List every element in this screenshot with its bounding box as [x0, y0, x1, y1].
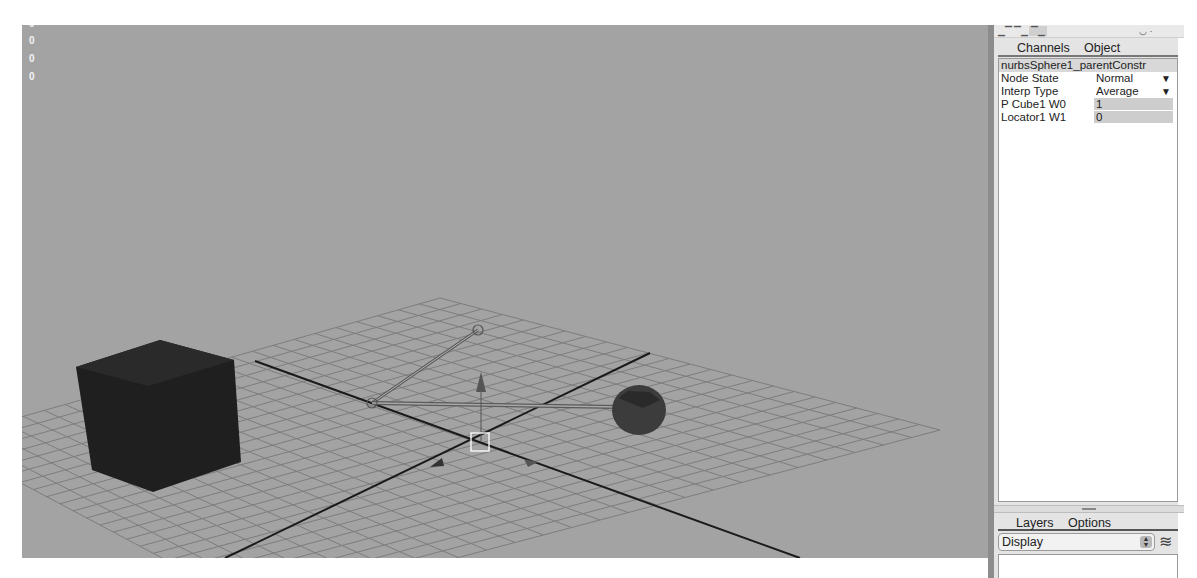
- attribute-layout-icon[interactable]: ▔▁: [1014, 26, 1028, 36]
- attribute-row[interactable]: P Cube1 W0 1: [999, 98, 1177, 111]
- scene-canvas[interactable]: [22, 25, 988, 558]
- hud-value: 0: [29, 25, 35, 29]
- attribute-label: Interp Type: [1001, 85, 1058, 98]
- new-layer-icon[interactable]: ≋: [1159, 533, 1177, 551]
- hud-value: 0: [29, 71, 35, 82]
- pcube1-weight-field[interactable]: 1: [1094, 98, 1173, 110]
- attribute-label: P Cube1 W0: [1001, 98, 1066, 111]
- hud-value: 0: [29, 35, 35, 46]
- layer-type-value: Display: [1002, 535, 1043, 549]
- layer-type-select[interactable]: Display ▲▼: [998, 533, 1155, 551]
- perspective-viewport[interactable]: 0 0 0 0: [22, 25, 988, 558]
- panel-toolbar: ▁▔ ▔▁ ▔▁ ◡ ·: [994, 25, 1184, 38]
- splitter-grip-icon[interactable]: [1082, 508, 1096, 510]
- grid-line: [260, 430, 940, 558]
- translate-y-arrow-icon: [476, 372, 486, 392]
- grid-line: [190, 369, 600, 520]
- hud-value: 0: [29, 53, 35, 64]
- channel-box-menubar: Channels Object: [998, 40, 1178, 57]
- attribute-row[interactable]: Locator1 W1 0: [999, 111, 1177, 124]
- node-name[interactable]: nurbsSphere1_parentConstr: [999, 59, 1177, 72]
- grid-line: [247, 425, 920, 559]
- channel-layout-icon[interactable]: ▁▔: [998, 26, 1012, 36]
- tab-channels[interactable]: Channels: [1017, 41, 1070, 55]
- grid-line: [153, 386, 773, 553]
- maya-window: 0 0 0 0 ▁▔ ▔▁ ▔▁ ◡ · Channels Object nur…: [0, 0, 1197, 578]
- select-stepper-icon: ▲▼: [1140, 536, 1152, 548]
- tab-object[interactable]: Object: [1084, 41, 1120, 55]
- attribute-label: Locator1 W1: [1001, 111, 1066, 124]
- translate-x-arrow-icon: [430, 458, 444, 467]
- dropdown-arrow-icon: ▼: [1161, 85, 1171, 98]
- attribute-value: Average: [1096, 85, 1139, 97]
- interp-type-dropdown[interactable]: Average ▼: [1094, 85, 1173, 97]
- panel-splitter[interactable]: [994, 505, 1184, 513]
- grid-line: [167, 392, 795, 559]
- layer-editor-menubar: Layers Options: [998, 514, 1178, 531]
- attribute-row[interactable]: Interp Type Average ▼: [999, 85, 1177, 98]
- attribute-row[interactable]: Node State Normal ▼: [999, 72, 1177, 85]
- camera-icon[interactable]: ◡ ·: [1139, 26, 1153, 36]
- node-state-dropdown[interactable]: Normal ▼: [1094, 72, 1173, 84]
- grid-line: [193, 403, 836, 559]
- menu-options[interactable]: Options: [1068, 516, 1111, 530]
- locator1-weight-field[interactable]: 0: [1094, 111, 1173, 123]
- channel-box: nurbsSphere1_parentConstr Node State Nor…: [998, 58, 1178, 502]
- layer-list: [998, 554, 1178, 578]
- attribute-value: Normal: [1096, 72, 1133, 84]
- z-axis-line: [225, 353, 650, 558]
- channel-box-panel: ▁▔ ▔▁ ▔▁ ◡ · Channels Object nurbsSphere…: [988, 25, 1178, 578]
- tool-settings-icon[interactable]: ▔▁: [1029, 26, 1047, 36]
- attribute-label: Node State: [1001, 72, 1059, 85]
- menu-layers[interactable]: Layers: [1016, 516, 1054, 530]
- dropdown-arrow-icon: ▼: [1161, 72, 1171, 85]
